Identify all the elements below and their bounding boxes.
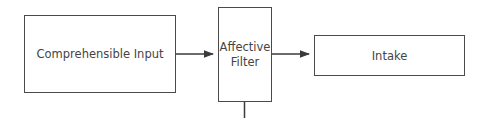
affective-filter-box: Affective Filter bbox=[218, 7, 272, 102]
intake-box: Intake bbox=[314, 35, 465, 76]
affective-filter-label: Affective Filter bbox=[220, 40, 271, 70]
comprehensible-input-label: Comprehensible Input bbox=[37, 47, 164, 61]
intake-label: Intake bbox=[372, 49, 408, 63]
comprehensible-input-box: Comprehensible Input bbox=[24, 15, 176, 93]
